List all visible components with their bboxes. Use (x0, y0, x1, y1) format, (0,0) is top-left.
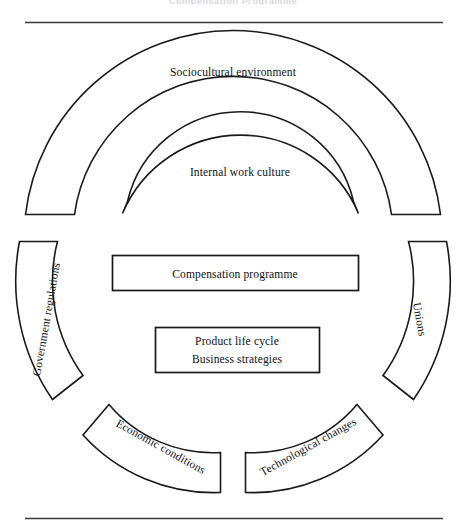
ring-inner-label: Internal work culture (190, 166, 290, 178)
figure-canvas: Compensation Programme Sociocultural env… (0, 0, 466, 531)
business-strategies-label: Business strategies (192, 353, 282, 366)
ring-bottom-left-economic-conditions (83, 405, 221, 493)
ring-outer-label: Sociocultural environment (170, 66, 297, 78)
compensation-programme-label: Compensation programme (172, 268, 298, 281)
product-life-cycle-label: Product life cycle (195, 335, 279, 348)
ring-inner-work-culture (123, 112, 359, 214)
compensation-influences-diagram: Sociocultural environment Internal work … (0, 0, 466, 531)
